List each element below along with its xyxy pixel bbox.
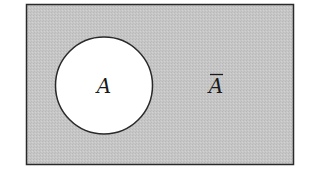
set-a-label: A [95,74,111,98]
complement-label: A [207,74,223,98]
venn-diagram: A A [0,0,318,181]
